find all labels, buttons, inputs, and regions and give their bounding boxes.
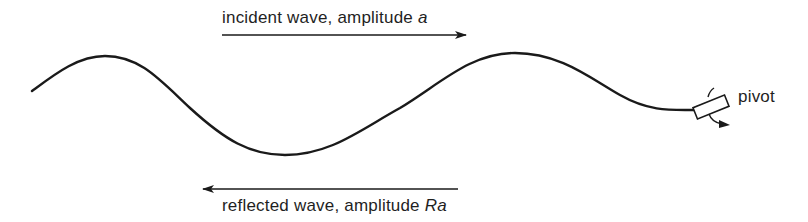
incident-amplitude-symbol: a (418, 8, 428, 27)
pivot-label: pivot (738, 87, 775, 107)
incident-wave-label: incident wave, amplitude a (222, 8, 428, 28)
reflected-wave-label: reflected wave, amplitude Ra (222, 196, 447, 216)
reflected-wave-text: reflected wave, amplitude (222, 196, 425, 215)
pivot-icon (693, 88, 730, 128)
wave-diagram (0, 0, 808, 222)
reflected-amplitude-symbol: Ra (425, 196, 447, 215)
wave-curve (32, 53, 695, 155)
incident-wave-text: incident wave, amplitude (222, 8, 418, 27)
